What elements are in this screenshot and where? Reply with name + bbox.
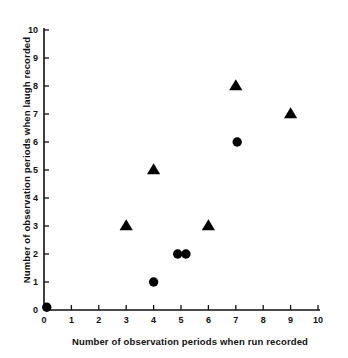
x-tick-label: 0 (41, 315, 46, 325)
data-markers (42, 79, 297, 312)
y-tick-label: 4 (33, 193, 38, 203)
data-point-triangle (202, 219, 215, 230)
axis-spines (44, 28, 320, 310)
y-tick-label: 5 (33, 165, 38, 175)
x-tick-label: 7 (233, 315, 238, 325)
data-point-circle (149, 277, 158, 286)
y-tick-label: 0 (33, 305, 38, 315)
y-tick-label: 9 (33, 53, 38, 63)
data-point-triangle (284, 107, 297, 118)
x-tick-label: 10 (313, 315, 323, 325)
x-tick-label: 8 (261, 315, 266, 325)
data-point-circle (232, 137, 241, 146)
data-point-circle (173, 249, 182, 258)
y-tick-label: 10 (28, 25, 38, 35)
scatter-plot-figure: Number of observation periods when laugh… (0, 0, 348, 358)
x-axis-tick-labels: 012345678910 (41, 315, 323, 325)
x-tick-label: 2 (96, 315, 101, 325)
x-tick-label: 6 (206, 315, 211, 325)
x-tick-label: 9 (288, 315, 293, 325)
y-tick-label: 7 (33, 109, 38, 119)
y-axis-tick-labels: 012345678910 (28, 25, 38, 315)
x-tick-label: 5 (178, 315, 183, 325)
data-point-triangle (120, 219, 133, 230)
x-tick-label: 4 (151, 315, 156, 325)
x-tick-label: 1 (69, 315, 74, 325)
data-point-circle (42, 303, 51, 312)
y-tick-label: 1 (33, 277, 38, 287)
y-tick-label: 3 (33, 221, 38, 231)
y-tick-label: 2 (33, 249, 38, 259)
data-point-triangle (229, 79, 242, 90)
x-tick-label: 3 (124, 315, 129, 325)
plot-canvas: 012345678910 012345678910 (0, 0, 348, 358)
data-point-triangle (147, 163, 160, 174)
data-point-circle (181, 249, 190, 258)
y-tick-label: 6 (33, 137, 38, 147)
y-tick-label: 8 (33, 81, 38, 91)
